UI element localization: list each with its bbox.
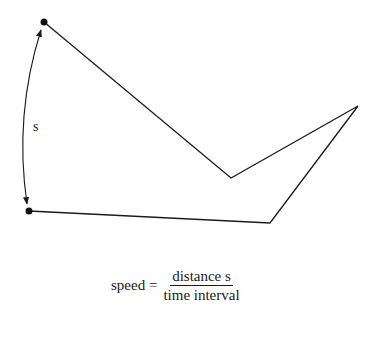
distance-arc-arrow (23, 30, 41, 204)
formula-lhs: speed = (111, 277, 157, 294)
speed-formula: speed = distance s time interval (111, 268, 242, 303)
start-point (41, 19, 48, 26)
formula-fraction: distance s time interval (161, 268, 241, 303)
travel-path (29, 22, 358, 223)
distance-label: s (33, 119, 38, 135)
end-point (26, 208, 33, 215)
formula-numerator: distance s (170, 268, 233, 286)
formula-denominator: time interval (161, 286, 241, 303)
